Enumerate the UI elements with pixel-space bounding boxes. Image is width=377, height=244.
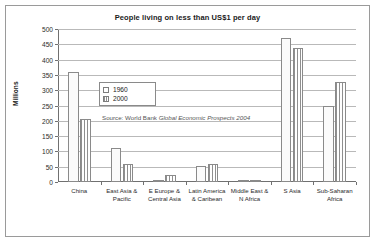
gridline [58, 44, 356, 45]
y-tick-mark [55, 136, 58, 137]
bar-1960 [111, 148, 122, 182]
y-tick-mark [55, 75, 58, 76]
gridline [58, 75, 356, 76]
x-category-label: Middle East &N Africa [228, 187, 271, 203]
legend-item-2000: 2000 [103, 94, 152, 103]
gridline [58, 60, 356, 61]
y-tick-mark [55, 106, 58, 107]
y-tick-mark [55, 151, 58, 152]
bar-1960 [196, 166, 207, 182]
x-category-label: China [58, 187, 101, 195]
y-tick-mark [55, 29, 58, 30]
white-square-icon [103, 87, 109, 93]
gridline [58, 29, 356, 30]
hatched-square-icon [103, 96, 109, 102]
x-tick-mark [186, 182, 187, 185]
chart-title: People living on less than US$1 per day [6, 13, 369, 22]
x-tick-mark [313, 182, 314, 185]
x-tick-mark [101, 182, 102, 185]
y-tick-mark [55, 182, 58, 183]
bar-1960 [281, 38, 292, 182]
bar-2000 [80, 119, 91, 182]
y-tick-label: 450 [42, 41, 53, 48]
x-category-label: Latin America& Caribean [186, 187, 229, 203]
bar-1960 [68, 72, 79, 182]
source-note: Source: World Bank Global Economic Prosp… [102, 114, 250, 121]
y-tick-mark [55, 90, 58, 91]
x-tick-mark [143, 182, 144, 185]
y-tick-label: 150 [42, 133, 53, 140]
legend-label: 2000 [113, 95, 128, 102]
legend-item-1960: 1960 [103, 85, 152, 94]
bar-2000 [165, 175, 176, 182]
y-tick-mark [55, 44, 58, 45]
y-tick-label: 350 [42, 71, 53, 78]
gridline [58, 151, 356, 152]
bar-2000 [335, 82, 346, 182]
y-tick-label: 200 [42, 117, 53, 124]
x-category-label: S Asia [271, 187, 314, 195]
y-tick-label: 300 [42, 87, 53, 94]
x-tick-mark [271, 182, 272, 185]
y-tick-label: 0 [49, 179, 53, 186]
bar-2000 [208, 164, 219, 182]
y-tick-label: 100 [42, 148, 53, 155]
y-tick-label: 50 [46, 163, 53, 170]
x-category-label: East Asia &Pacific [101, 187, 144, 203]
bar-2000 [293, 48, 304, 182]
bar-1960 [323, 106, 334, 182]
chart-legend: 1960 2000 [99, 82, 156, 106]
source-citation: Global Economic Prospects 2004 [159, 114, 251, 121]
legend-label: 1960 [113, 86, 128, 93]
bar-1960 [238, 180, 249, 182]
y-axis-label: Millions [12, 81, 19, 106]
y-tick-label: 250 [42, 102, 53, 109]
bar-2000 [123, 164, 134, 182]
gridline [58, 136, 356, 137]
bar-2000 [250, 180, 261, 182]
y-tick-mark [55, 121, 58, 122]
x-tick-mark [356, 182, 357, 185]
bar-1960 [153, 180, 164, 182]
x-category-label: E Europe &Central Asia [143, 187, 186, 203]
chart-frame: People living on less than US$1 per day … [5, 5, 370, 237]
source-prefix: Source: World Bank [102, 114, 159, 121]
y-tick-label: 400 [42, 56, 53, 63]
x-tick-mark [228, 182, 229, 185]
x-category-label: Sub-SaharanAfrica [313, 187, 356, 203]
y-tick-mark [55, 60, 58, 61]
y-tick-mark [55, 167, 58, 168]
y-tick-label: 500 [42, 26, 53, 33]
